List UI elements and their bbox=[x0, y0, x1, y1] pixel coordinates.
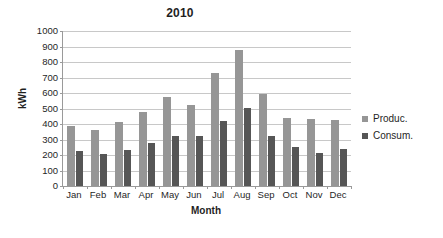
y-tick-label: 200 bbox=[26, 150, 58, 160]
x-tick-label-sep: Sep bbox=[254, 189, 278, 201]
legend-item-consum[interactable]: Consum. bbox=[362, 127, 440, 144]
bar-produc-jul[interactable] bbox=[211, 73, 219, 186]
bar-consum-may[interactable] bbox=[172, 136, 180, 186]
y-tick-label: 0 bbox=[26, 181, 58, 191]
y-tick-label: 600 bbox=[26, 88, 58, 98]
bar-produc-nov[interactable] bbox=[307, 119, 315, 186]
bar-consum-feb[interactable] bbox=[100, 154, 108, 186]
bar-produc-aug[interactable] bbox=[235, 50, 243, 186]
bar-produc-feb[interactable] bbox=[91, 130, 99, 186]
bar-produc-may[interactable] bbox=[163, 97, 171, 186]
bar-consum-oct[interactable] bbox=[292, 147, 300, 186]
x-tick-label-may: May bbox=[158, 189, 182, 201]
x-tick-label-jul: Jul bbox=[206, 189, 230, 201]
bar-group bbox=[255, 31, 279, 186]
legend-item-produc[interactable]: Produc. bbox=[362, 110, 440, 127]
legend-swatch-produc bbox=[362, 116, 368, 122]
legend-label: Produc. bbox=[373, 114, 407, 124]
bar-consum-nov[interactable] bbox=[316, 153, 324, 186]
bar-produc-sep[interactable] bbox=[259, 94, 267, 186]
bar-group bbox=[87, 31, 111, 186]
x-axis-tick-labels: JanFebMarAprMayJunJulAugSepOctNovDec bbox=[62, 189, 350, 203]
x-tick-label-aug: Aug bbox=[230, 189, 254, 201]
bar-produc-dec[interactable] bbox=[331, 120, 339, 186]
y-tick-label: 1000 bbox=[26, 26, 58, 36]
bar-group bbox=[183, 31, 207, 186]
chart-legend: Produc.Consum. bbox=[362, 110, 440, 144]
x-tick-label-dec: Dec bbox=[326, 189, 350, 201]
y-tick-label: 500 bbox=[26, 104, 58, 114]
y-tick-label: 900 bbox=[26, 42, 58, 52]
bar-group bbox=[279, 31, 303, 186]
x-tick-label-feb: Feb bbox=[86, 189, 110, 201]
bar-group bbox=[111, 31, 135, 186]
legend-swatch-consum bbox=[362, 133, 368, 139]
y-tick-label: 800 bbox=[26, 57, 58, 67]
x-tick-label-oct: Oct bbox=[278, 189, 302, 201]
x-tick-label-jan: Jan bbox=[62, 189, 86, 201]
bar-produc-apr[interactable] bbox=[139, 112, 147, 186]
x-tick-label-jun: Jun bbox=[182, 189, 206, 201]
legend-label: Consum. bbox=[373, 131, 413, 141]
bar-group bbox=[159, 31, 183, 186]
bar-consum-mar[interactable] bbox=[124, 150, 132, 186]
bar-group bbox=[303, 31, 327, 186]
bar-group bbox=[135, 31, 159, 186]
x-tick-label-mar: Mar bbox=[110, 189, 134, 201]
bar-group bbox=[63, 31, 87, 186]
y-tick-label: 700 bbox=[26, 73, 58, 83]
y-tick-label: 400 bbox=[26, 119, 58, 129]
x-tick-label-nov: Nov bbox=[302, 189, 326, 201]
bar-produc-jun[interactable] bbox=[187, 105, 195, 186]
bar-group bbox=[327, 31, 351, 186]
plot-area bbox=[62, 31, 351, 187]
y-axis-tick-labels: 10009008007006005004003002001000 bbox=[26, 31, 58, 186]
bar-consum-apr[interactable] bbox=[148, 143, 156, 186]
y-tick-label: 100 bbox=[26, 166, 58, 176]
bar-group bbox=[207, 31, 231, 186]
x-axis-title: Month bbox=[62, 205, 350, 216]
bar-produc-mar[interactable] bbox=[115, 122, 123, 186]
chart-title: 2010 bbox=[0, 6, 360, 20]
bars-layer bbox=[63, 31, 351, 186]
bar-consum-aug[interactable] bbox=[244, 108, 252, 186]
bar-group bbox=[231, 31, 255, 186]
x-tick-mark bbox=[351, 186, 352, 189]
bar-consum-jan[interactable] bbox=[76, 151, 84, 186]
bar-produc-jan[interactable] bbox=[67, 126, 75, 186]
bar-produc-oct[interactable] bbox=[283, 118, 291, 186]
bar-consum-sep[interactable] bbox=[268, 136, 276, 186]
bar-consum-jul[interactable] bbox=[220, 121, 228, 186]
bar-consum-dec[interactable] bbox=[340, 149, 348, 186]
bar-consum-jun[interactable] bbox=[196, 136, 204, 186]
x-tick-label-apr: Apr bbox=[134, 189, 158, 201]
y-tick-label: 300 bbox=[26, 135, 58, 145]
bar-chart: 2010 kWh 1000900800700600500400300200100… bbox=[0, 0, 443, 238]
